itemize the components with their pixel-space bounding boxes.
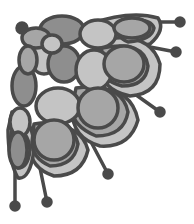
scale-bottom-b	[34, 120, 74, 160]
scale-corner-b	[42, 35, 62, 53]
scale-corner-c	[19, 46, 37, 74]
scale-low-c	[78, 88, 118, 128]
scale-top-b	[80, 20, 116, 48]
scale-mid-d	[104, 46, 144, 82]
corner-knob	[17, 23, 27, 33]
corner-ornament	[0, 0, 194, 224]
scale-low-b	[36, 88, 80, 124]
scale-top-c	[114, 18, 150, 38]
floral-corner-illustration	[0, 0, 194, 224]
scale-bottom-c	[9, 132, 27, 168]
